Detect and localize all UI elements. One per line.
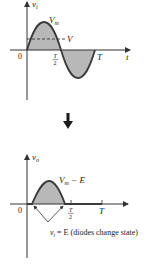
pointer-arrow-left	[34, 206, 48, 222]
diode-switch-annotation: vi = E (diodes change state)	[50, 228, 138, 238]
period-label: T	[99, 206, 105, 216]
diagram-canvas: vi Vm V 0 T 2 T t vo	[0, 0, 154, 267]
pointer-arrow-right	[48, 206, 63, 222]
half-period-num: T	[69, 207, 73, 213]
period-label: T	[97, 52, 103, 62]
y-axis-label: vi	[32, 0, 38, 10]
input-waveform-graph: vi Vm V 0 T 2 T t	[10, 0, 130, 100]
output-waveform-graph: vo Vm − E 0 T 2 T vi = E (diodes change …	[10, 152, 138, 258]
half-period-den: 2	[54, 60, 57, 66]
origin-label: 0	[18, 52, 22, 61]
half-period-den: 2	[69, 214, 72, 220]
y-axis-label: vo	[32, 152, 39, 163]
origin-label: 0	[18, 206, 22, 215]
half-period-num: T	[54, 53, 58, 59]
transform-arrow	[63, 113, 73, 129]
peak-label: Vm − E	[59, 175, 85, 186]
peak-label: Vm	[49, 15, 60, 26]
dc-level-label: V	[67, 34, 74, 44]
x-axis-label: t	[126, 52, 129, 62]
